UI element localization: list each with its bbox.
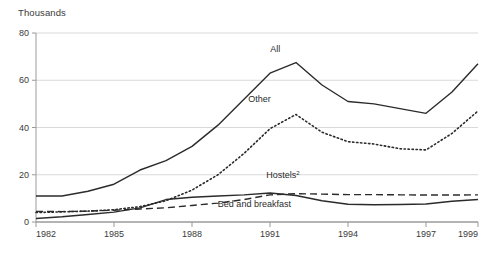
line-chart-plot: 020406080 1982198519881991199419971999 A… [0, 0, 490, 253]
x-axis-tick-label: 1999 [458, 229, 478, 239]
series-line-all [36, 63, 478, 196]
x-axis-tick-label: 1991 [260, 229, 280, 239]
x-axis-tick-label: 1985 [104, 229, 124, 239]
y-axis-tick-label: 20 [19, 170, 29, 180]
series-label-bed-and-breakfast: Bed and breakfast [218, 199, 292, 209]
x-axis-tick-label: 1994 [338, 229, 358, 239]
y-axis-tick-label: 60 [19, 75, 29, 85]
series-group [36, 63, 478, 219]
y-axis-group: 020406080 [19, 28, 36, 227]
y-axis-tick-label: 40 [19, 123, 29, 133]
x-axis-group: 1982198519881991199419971999 [36, 222, 478, 239]
series-label-hostels2: Hostels2 [266, 170, 300, 180]
series-label-other: Other [248, 94, 271, 104]
x-axis-tick-label: 1982 [36, 229, 56, 239]
y-axis-tick-label: 80 [19, 28, 29, 38]
y-axis-tick-label: 0 [24, 217, 29, 227]
x-axis-tick-label: 1997 [416, 229, 436, 239]
series-annotations-group: AllOtherHostels2Bed and breakfast [218, 44, 300, 209]
chart-container: Thousands 020406080 19821985198819911994… [0, 0, 490, 253]
series-label-all: All [270, 44, 280, 54]
x-axis-tick-label: 1988 [182, 229, 202, 239]
